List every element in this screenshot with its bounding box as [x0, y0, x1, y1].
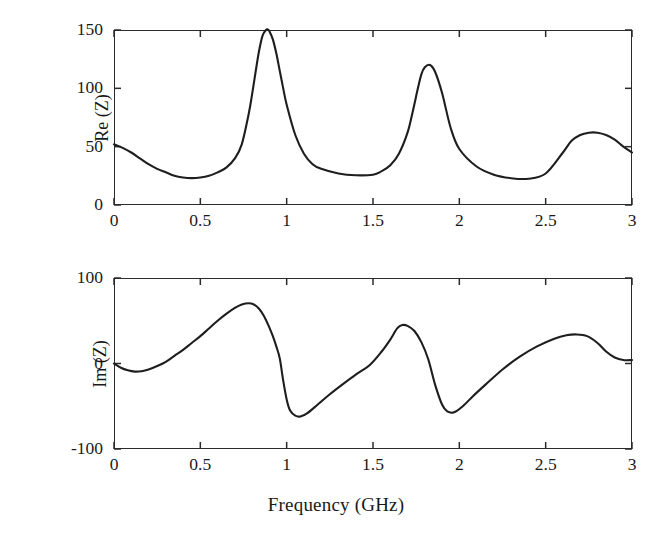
ytick-label-bottom-minus100: -100	[71, 440, 103, 458]
xtick-label-bottom-0: 0	[110, 456, 119, 474]
xtick-label-top-3: 3	[628, 212, 637, 230]
xtick-label-top-0: 0	[110, 212, 119, 230]
plot-area-top	[114, 30, 632, 205]
data-curve-imaginary-impedance	[114, 303, 632, 416]
xtick-label-top-1p5: 1.5	[362, 212, 384, 230]
xtick-label-top-0p5: 0.5	[189, 212, 211, 230]
xtick-label-bottom-3: 3	[628, 456, 637, 474]
y-axis-label-bottom: Im (Z)	[90, 340, 111, 387]
xtick-label-top-2: 2	[455, 212, 464, 230]
plot-area-bottom	[114, 278, 632, 449]
xtick-label-bottom-1p5: 1.5	[362, 456, 384, 474]
data-curve-real-impedance	[114, 29, 632, 179]
ytick-label-top-150: 150	[77, 21, 103, 39]
xtick-label-bottom-1: 1	[282, 456, 291, 474]
figure-impedance-vs-frequency: 0 50 100 150 0 0.5 1 1.5 2 2.5 3 Re (Z) …	[0, 0, 672, 542]
x-axis-label: Frequency (GHz)	[0, 494, 672, 516]
y-axis-label-top: Re (Z)	[92, 94, 113, 141]
chart-panel-real-impedance: 0 50 100 150 0 0.5 1 1.5 2 2.5 3 Re (Z)	[114, 30, 632, 205]
xtick-label-top-2p5: 2.5	[535, 212, 557, 230]
xtick-label-bottom-2: 2	[455, 456, 464, 474]
xtick-label-bottom-0p5: 0.5	[189, 456, 211, 474]
xtick-label-top-1: 1	[282, 212, 291, 230]
xtick-label-bottom-2p5: 2.5	[535, 456, 557, 474]
chart-panel-imaginary-impedance: -100 0 100 0 0.5 1 1.5 2 2.5 3 Im (Z)	[114, 278, 632, 449]
ytick-label-bottom-100: 100	[77, 269, 103, 287]
ytick-label-top-0: 0	[94, 196, 103, 214]
axis-ticks-bottom	[114, 278, 632, 449]
